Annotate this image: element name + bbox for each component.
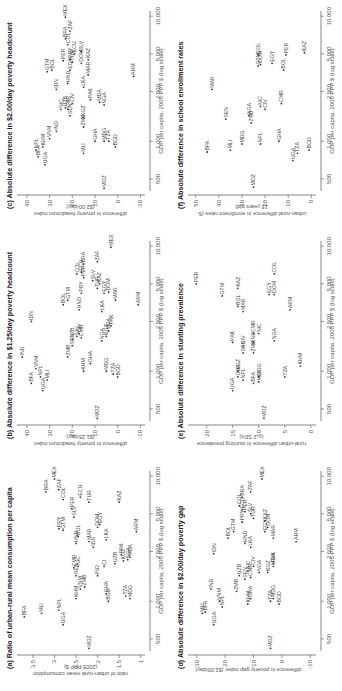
data-point — [83, 277, 85, 279]
y-tick-label: 20 — [262, 199, 268, 206]
data-point — [272, 537, 274, 539]
point-label: NGA — [246, 102, 252, 114]
data-point — [213, 553, 215, 555]
point-label: KAZ — [96, 272, 102, 282]
data-point — [258, 333, 260, 335]
point-label: BGD — [115, 364, 121, 375]
data-point — [108, 330, 110, 332]
point-label: KAZ — [262, 509, 268, 519]
point-label: MDG — [256, 363, 262, 375]
data-point — [278, 140, 280, 142]
data-point — [204, 611, 206, 613]
point-label: SEN — [223, 107, 229, 118]
point-label: PER — [60, 48, 66, 59]
point-label: MDG — [239, 130, 245, 142]
data-point — [77, 535, 79, 537]
y-tick-label: 0 — [279, 659, 285, 663]
data-point — [30, 321, 32, 323]
data-point — [79, 588, 81, 590]
data-point — [129, 598, 131, 600]
y-tick-label: 10 — [256, 429, 262, 436]
data-point — [88, 647, 90, 649]
data-point — [244, 511, 246, 513]
data-point — [241, 496, 243, 498]
y-tick-label: 10 — [92, 429, 98, 436]
point-label: KHM — [80, 358, 86, 370]
data-point — [103, 104, 105, 106]
point-label: MAR — [270, 525, 276, 537]
point-label: COL — [255, 43, 261, 54]
point-label: KAZ — [85, 48, 91, 58]
data-point — [54, 478, 56, 480]
data-point — [229, 149, 231, 151]
data-point — [253, 382, 255, 384]
point-label: TZA — [294, 142, 300, 152]
data-point — [241, 143, 243, 145]
point-label: VNM — [46, 126, 52, 138]
data-point — [299, 365, 301, 367]
point-label: CIV — [76, 323, 82, 332]
data-point — [92, 546, 94, 548]
data-point — [75, 543, 77, 545]
data-point — [206, 151, 208, 153]
data-point — [137, 304, 139, 306]
point-label: NPL — [56, 598, 62, 608]
data-point — [103, 187, 105, 189]
point-label: TZA — [105, 129, 111, 139]
point-label: GHA — [92, 128, 98, 140]
data-point — [270, 600, 272, 602]
data-point — [233, 531, 235, 533]
data-point — [264, 520, 266, 522]
point-label: PER — [69, 496, 75, 507]
y-tick-label: 30 — [239, 199, 245, 206]
point-label: ZMB — [65, 344, 71, 355]
data-point — [244, 543, 246, 545]
point-label: MEX — [108, 234, 114, 246]
panel-b-125-headcount: (b) Absolute difference in $1.25/day pov… — [0, 231, 171, 461]
point-label: KAZ — [116, 491, 122, 501]
data-point — [250, 122, 252, 124]
scatter-plot: -1001020305001,0002,5005,00010,000MLIBFA… — [171, 461, 342, 691]
data-point — [129, 556, 131, 558]
point-label: BRA — [43, 479, 49, 490]
y-tick-label: 30 — [47, 429, 53, 436]
data-point — [250, 513, 252, 515]
point-label: LKA — [247, 535, 253, 545]
data-point — [97, 575, 99, 577]
y-tick-label: 15 — [230, 429, 236, 436]
data-point — [46, 379, 48, 381]
data-point — [78, 333, 80, 335]
data-point — [92, 280, 94, 282]
point-label: ZMB — [233, 578, 239, 589]
data-point — [135, 531, 137, 533]
point-label: LKA — [99, 300, 105, 310]
data-point — [76, 273, 78, 275]
point-label: EGY — [97, 512, 103, 523]
point-label: IDN — [53, 79, 59, 88]
point-label: MOZ — [101, 175, 107, 187]
data-point — [71, 508, 73, 510]
data-point — [62, 499, 64, 501]
x-axis-label: GDP per capita, 2005 PPP $ (log scale) — [329, 231, 335, 431]
data-point — [273, 340, 275, 342]
point-label: NGA — [271, 328, 277, 340]
y-tick-label: 10 — [251, 659, 257, 666]
data-point — [257, 54, 259, 56]
data-point — [225, 118, 227, 120]
point-label: LKA — [103, 528, 109, 538]
data-point — [42, 390, 44, 392]
point-label: MOZ — [250, 174, 256, 186]
point-label: GTM — [60, 517, 66, 529]
point-label: IND — [94, 565, 100, 574]
data-point — [260, 64, 262, 66]
data-point — [253, 352, 255, 354]
point-label: BOL — [280, 58, 286, 68]
data-point — [213, 624, 215, 626]
data-point — [88, 501, 90, 503]
y-tick-label: 10 — [92, 199, 98, 206]
point-label: GTM — [219, 283, 225, 295]
data-point — [308, 149, 310, 151]
data-point — [97, 526, 99, 528]
point-label: MOZ — [261, 405, 267, 417]
data-point — [236, 590, 238, 592]
